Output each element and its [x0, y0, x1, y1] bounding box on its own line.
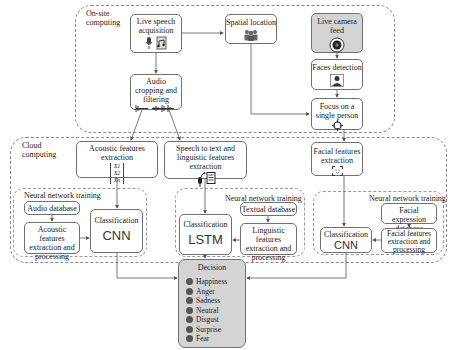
connector-arrows — [0, 0, 457, 350]
